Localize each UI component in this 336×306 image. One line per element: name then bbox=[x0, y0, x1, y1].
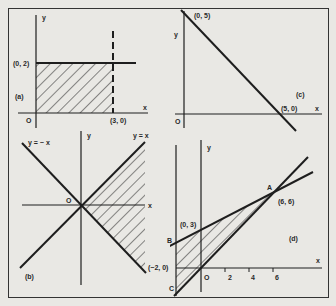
point-label-B: B bbox=[167, 237, 172, 244]
point-coords-minus-2-0: (−2, 0) bbox=[148, 264, 168, 272]
point-label-A: A bbox=[267, 184, 272, 191]
figure-border bbox=[9, 9, 329, 298]
origin-label-a: O bbox=[26, 117, 32, 124]
axis-label-x-d: x bbox=[316, 257, 320, 264]
shaded-region-b bbox=[81, 142, 145, 273]
tick-label-6: 6 bbox=[275, 274, 279, 281]
axis-label-y-d: y bbox=[207, 144, 211, 152]
point-label-5-0: (5, 0) bbox=[281, 105, 297, 113]
axis-label-y-a: y bbox=[42, 14, 46, 22]
point-coords-A: (6, 6) bbox=[278, 198, 294, 206]
panel-label-a: (a) bbox=[15, 93, 24, 101]
tick-label-4: 4 bbox=[251, 274, 255, 281]
panel-a: y x O (0, 2) (3, 0) (a) bbox=[13, 14, 148, 128]
point-coords-0-3: (0, 3) bbox=[180, 221, 196, 229]
panel-c: y x O (0, 5) (5, 0) (c) bbox=[174, 10, 322, 131]
point-label-0-5: (0, 5) bbox=[194, 12, 210, 20]
panel-d bbox=[168, 140, 322, 296]
axis-label-x-c: x bbox=[315, 105, 319, 112]
axis-label-x-b: x bbox=[148, 202, 152, 209]
point-label-0-2: (0, 2) bbox=[13, 60, 29, 68]
line-label-y-x: y = x bbox=[133, 132, 149, 140]
panel-label-b: (b) bbox=[25, 273, 34, 281]
point-label-3-0: (3, 0) bbox=[110, 117, 126, 125]
origin-label-c: O bbox=[175, 118, 181, 125]
line-x-plus-y-equals-5 bbox=[181, 10, 296, 131]
origin-label-d: O bbox=[204, 274, 210, 281]
origin-label-b: O bbox=[66, 197, 72, 204]
panel-b: y x O y = − x y = x (b) bbox=[20, 131, 152, 285]
tick-label-2: 2 bbox=[228, 274, 232, 281]
point-label-C: C bbox=[169, 285, 174, 292]
axis-label-y-c: y bbox=[174, 31, 178, 39]
shaded-region-a bbox=[36, 63, 113, 113]
panel-label-d: (d) bbox=[289, 235, 298, 243]
panel-label-c: (c) bbox=[296, 91, 305, 99]
figure-four-graphs: y x O (0, 2) (3, 0) (a) y x O (0, 5) (5,… bbox=[0, 0, 336, 306]
axis-label-y-b: y bbox=[87, 132, 91, 140]
axis-label-x-a: x bbox=[143, 104, 147, 111]
line-label-y-minus-x: y = − x bbox=[28, 139, 50, 147]
